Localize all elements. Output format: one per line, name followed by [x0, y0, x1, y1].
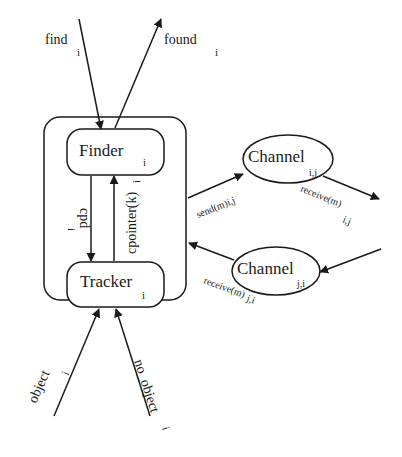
incoming-ji-arrow — [320, 249, 381, 272]
receive-ij-label: receive(m) — [299, 183, 344, 210]
send-arrow — [188, 174, 243, 198]
receive-ji-sub: j,i — [244, 292, 256, 306]
object-label: object — [25, 368, 53, 405]
channel-ij-node: Channel i,j — [243, 135, 333, 183]
cpd-label: cpd — [77, 208, 92, 228]
tracker-sub: i — [142, 289, 145, 301]
cpd-sub: i — [66, 228, 78, 231]
tracker-label: Tracker — [80, 272, 133, 291]
receive-ji-arrow — [189, 243, 234, 260]
diagram-canvas: Finder i Tracker i Channel i,j Channel j… — [0, 0, 402, 457]
tracker-node: Tracker i — [67, 262, 164, 307]
find-arrow — [79, 19, 101, 129]
find-label: find — [45, 32, 68, 47]
found-sub: i — [215, 46, 218, 58]
found-label: found — [164, 32, 197, 47]
finder-node: Finder i — [67, 129, 164, 175]
finder-label: Finder — [79, 141, 124, 160]
cpointer-sub: i — [130, 180, 142, 183]
object-sub: i — [59, 369, 71, 377]
channel-ij-label: Channel — [248, 147, 305, 166]
send-label: send(m)i,j — [195, 194, 237, 220]
channel-ji-sub: j,i — [296, 278, 305, 289]
finder-sub: i — [143, 156, 146, 168]
no-object-sub: i — [160, 425, 172, 432]
object-arrow — [54, 309, 99, 416]
find-sub: i — [77, 46, 80, 58]
channel-ji-label: Channel — [237, 259, 294, 278]
channel-ij-sub: i,j — [309, 167, 317, 178]
no-object-label: no_object — [131, 357, 162, 414]
cpointer-label: cpointer(k) — [124, 191, 140, 254]
receive-ij-sub: i,j — [341, 214, 353, 227]
found-arrow — [115, 19, 161, 128]
